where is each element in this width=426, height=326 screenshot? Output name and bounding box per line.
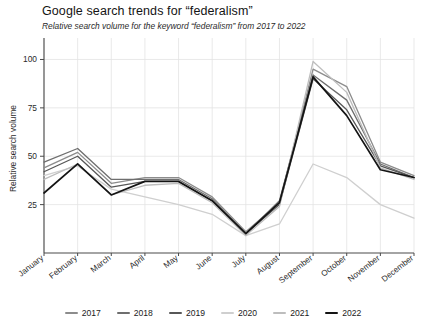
x-axis-tick-label-august: August (255, 253, 281, 276)
x-axis-tick-label-february: February (48, 253, 80, 281)
legend-item-2021[interactable]: 2021 (273, 308, 309, 318)
x-axis-tick-label-december: December (380, 253, 416, 284)
series-line-2022 (44, 77, 414, 234)
x-axis-tick-label-may: May (162, 253, 180, 270)
x-axis-tick-label-april: April (128, 253, 147, 270)
legend-swatch-icon (65, 312, 78, 314)
y-axis-tick-labels: 255075100 (23, 54, 44, 209)
legend-item-2017[interactable]: 2017 (65, 308, 101, 318)
line-chart-plot: 255075100 JanuaryFebruaryMarchAprilMayJu… (0, 0, 426, 300)
x-axis-tick-labels: JanuaryFebruaryMarchAprilMayJuneJulyAugu… (17, 253, 416, 285)
legend-swatch-icon (325, 312, 338, 314)
legend-label: 2022 (342, 308, 361, 318)
legend-label: 2018 (134, 308, 153, 318)
x-axis-tick-label-october: October (319, 253, 348, 278)
legend-swatch-icon (273, 312, 286, 314)
legend-swatch-icon (117, 312, 130, 314)
y-axis-title: Relative search volume (8, 105, 18, 192)
legend-swatch-icon (221, 312, 234, 314)
axis-lines (44, 38, 414, 253)
legend-item-2022[interactable]: 2022 (325, 308, 361, 318)
series-lines (44, 61, 414, 235)
legend-label: 2021 (290, 308, 309, 318)
series-line-2020 (44, 164, 414, 236)
series-line-2018 (44, 75, 414, 234)
gridlines (44, 38, 414, 253)
series-line-2021 (44, 61, 414, 235)
series-line-2017 (44, 69, 414, 232)
chart-legend: 201720182019202020212022 (0, 303, 426, 323)
y-axis-tick-label: 50 (28, 151, 38, 161)
x-axis-tick-label-march: March (89, 253, 113, 274)
x-axis-tick-label-january: January (17, 253, 46, 279)
x-axis-tick-label-november: November (346, 253, 382, 284)
y-axis-tick-label: 25 (28, 200, 38, 210)
y-axis-tick-label: 100 (23, 54, 37, 64)
legend-item-2020[interactable]: 2020 (221, 308, 257, 318)
legend-item-2018[interactable]: 2018 (117, 308, 153, 318)
legend-item-2019[interactable]: 2019 (169, 308, 205, 318)
legend-label: 2019 (186, 308, 205, 318)
x-axis-tick-label-june: June (194, 253, 214, 271)
legend-label: 2017 (82, 308, 101, 318)
y-axis-tick-label: 75 (28, 103, 38, 113)
legend-swatch-icon (169, 312, 182, 314)
chart-container: Google search trends for “federalism” Re… (0, 0, 426, 326)
legend-label: 2020 (238, 308, 257, 318)
x-axis-tick-label-july: July (230, 253, 248, 270)
x-axis-tick-label-september: September (277, 253, 314, 285)
